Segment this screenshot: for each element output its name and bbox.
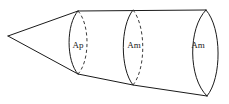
section-ap-label: Ap bbox=[73, 40, 84, 50]
section-am-2-label: Am bbox=[191, 40, 205, 50]
figure-canvas: Ap Am Am bbox=[0, 0, 229, 104]
upper-cone-generator-line bbox=[8, 11, 78, 36]
section-am-2-front-arc bbox=[193, 10, 207, 96]
section-am-2-back-arc bbox=[206, 10, 218, 96]
section-am-1-label: Am bbox=[127, 40, 141, 50]
upper-body-edge-line bbox=[78, 10, 206, 11]
lower-body-edge-line bbox=[78, 74, 207, 96]
nozzle-diagram-svg: Ap Am Am bbox=[0, 0, 229, 104]
lower-cone-generator-line bbox=[8, 36, 78, 74]
